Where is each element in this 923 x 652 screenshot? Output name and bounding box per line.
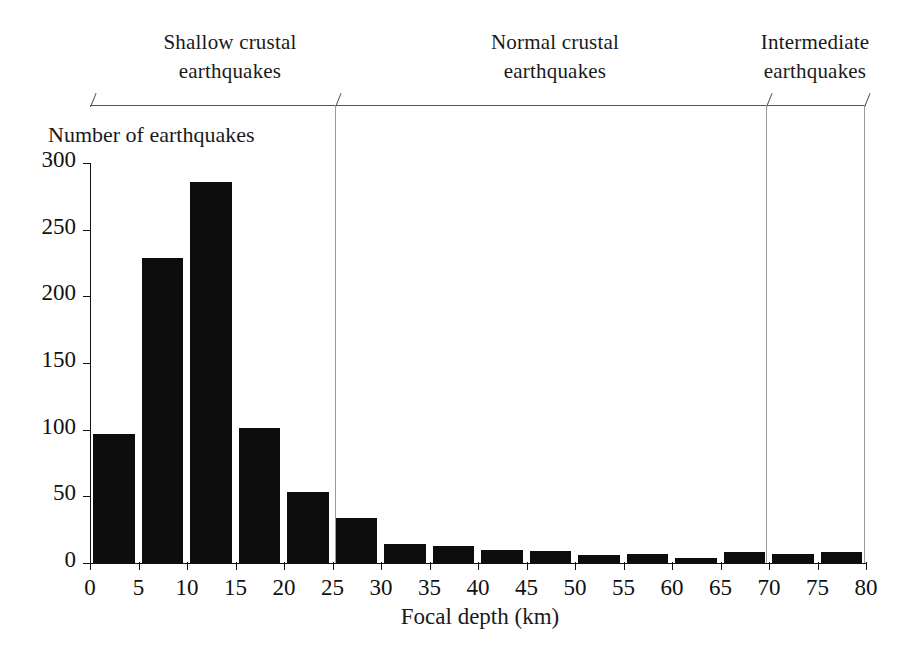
- plot-area: 050100150200250300 051015202530354045505…: [0, 0, 923, 652]
- x-tick-40: [478, 562, 479, 570]
- bar-45-50: [530, 551, 572, 563]
- x-tick-label-70: 70: [746, 575, 792, 601]
- x-tick-label-60: 60: [649, 575, 695, 601]
- bar-60-65: [675, 558, 717, 563]
- x-tick-label-0: 0: [67, 575, 113, 601]
- x-tick-60: [672, 562, 673, 570]
- y-tick-150: [83, 363, 91, 364]
- y-tick-50: [83, 496, 91, 497]
- bar-50-55: [578, 555, 620, 563]
- bar-70-75: [772, 554, 814, 563]
- y-tick-label-0: 0: [2, 547, 76, 573]
- x-tick-label-65: 65: [698, 575, 744, 601]
- x-tick-25: [333, 562, 334, 570]
- x-tick-label-80: 80: [843, 575, 889, 601]
- x-tick-label-25: 25: [310, 575, 356, 601]
- y-tick-label-100: 100: [2, 414, 76, 440]
- bar-65-70: [724, 552, 766, 563]
- bar-35-40: [433, 546, 475, 563]
- bar-5-10: [142, 258, 184, 563]
- x-tick-label-50: 50: [552, 575, 598, 601]
- x-tick-15: [236, 562, 237, 570]
- x-tick-label-40: 40: [455, 575, 501, 601]
- bar-0-5: [93, 434, 135, 563]
- x-tick-label-35: 35: [407, 575, 453, 601]
- y-tick-label-300: 300: [2, 147, 76, 173]
- y-tick-250: [83, 230, 91, 231]
- y-tick-label-250: 250: [2, 214, 76, 240]
- x-tick-30: [381, 562, 382, 570]
- y-tick-label-200: 200: [2, 280, 76, 306]
- x-tick-20: [284, 562, 285, 570]
- x-tick-label-10: 10: [164, 575, 210, 601]
- bar-20-25: [287, 492, 329, 563]
- bar-30-35: [384, 544, 426, 563]
- y-tick-100: [83, 430, 91, 431]
- bar-15-20: [239, 428, 281, 563]
- y-tick-label-50: 50: [2, 480, 76, 506]
- x-tick-75: [818, 562, 819, 570]
- x-tick-65: [721, 562, 722, 570]
- earthquake-focal-depth-histogram: Shallow crustal earthquakes Normal crust…: [0, 0, 923, 652]
- bar-10-15: [190, 182, 232, 563]
- x-tick-label-55: 55: [601, 575, 647, 601]
- x-tick-label-45: 45: [504, 575, 550, 601]
- x-tick-10: [187, 562, 188, 570]
- x-tick-55: [624, 562, 625, 570]
- x-tick-label-75: 75: [795, 575, 841, 601]
- bar-55-60: [627, 554, 669, 563]
- x-tick-label-20: 20: [261, 575, 307, 601]
- x-tick-0: [90, 562, 91, 570]
- x-tick-70: [769, 562, 770, 570]
- x-tick-35: [430, 562, 431, 570]
- x-tick-50: [575, 562, 576, 570]
- x-tick-45: [527, 562, 528, 570]
- bar-25-30: [336, 518, 378, 563]
- y-tick-label-150: 150: [2, 347, 76, 373]
- x-tick-80: [866, 562, 867, 570]
- x-tick-5: [139, 562, 140, 570]
- bar-40-45: [481, 550, 523, 563]
- bar-75-80: [821, 552, 863, 563]
- y-tick-200: [83, 296, 91, 297]
- y-tick-300: [83, 163, 91, 164]
- x-tick-label-30: 30: [358, 575, 404, 601]
- x-tick-label-15: 15: [213, 575, 259, 601]
- x-tick-label-5: 5: [116, 575, 162, 601]
